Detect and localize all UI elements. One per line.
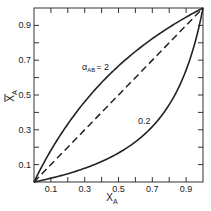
diagonal-dashed-line (34, 8, 203, 182)
y-tick-label: 0.3 (18, 125, 31, 135)
annotation-alpha-0-2: 0.2 (138, 116, 151, 126)
x-tick-label: 0.7 (146, 184, 159, 194)
svg-text:XA: XA (5, 90, 18, 102)
y-tick-label: 0.1 (18, 160, 31, 170)
y-axis-label: XA (5, 90, 18, 102)
y-tick-label: 0.9 (18, 20, 31, 30)
y-tick-label: 0.7 (18, 55, 31, 65)
chart: 0.10.30.50.70.90.10.30.50.70.9αAB= 20.2X… (0, 0, 211, 211)
annotation-alpha-2: αAB= 2 (82, 62, 109, 73)
x-tick-label: 0.5 (112, 184, 125, 194)
x-tick-label: 0.1 (45, 184, 58, 194)
x-tick-label: 0.9 (180, 184, 193, 194)
x-tick-label: 0.3 (78, 184, 91, 194)
y-tick-label: 0.5 (18, 90, 31, 100)
